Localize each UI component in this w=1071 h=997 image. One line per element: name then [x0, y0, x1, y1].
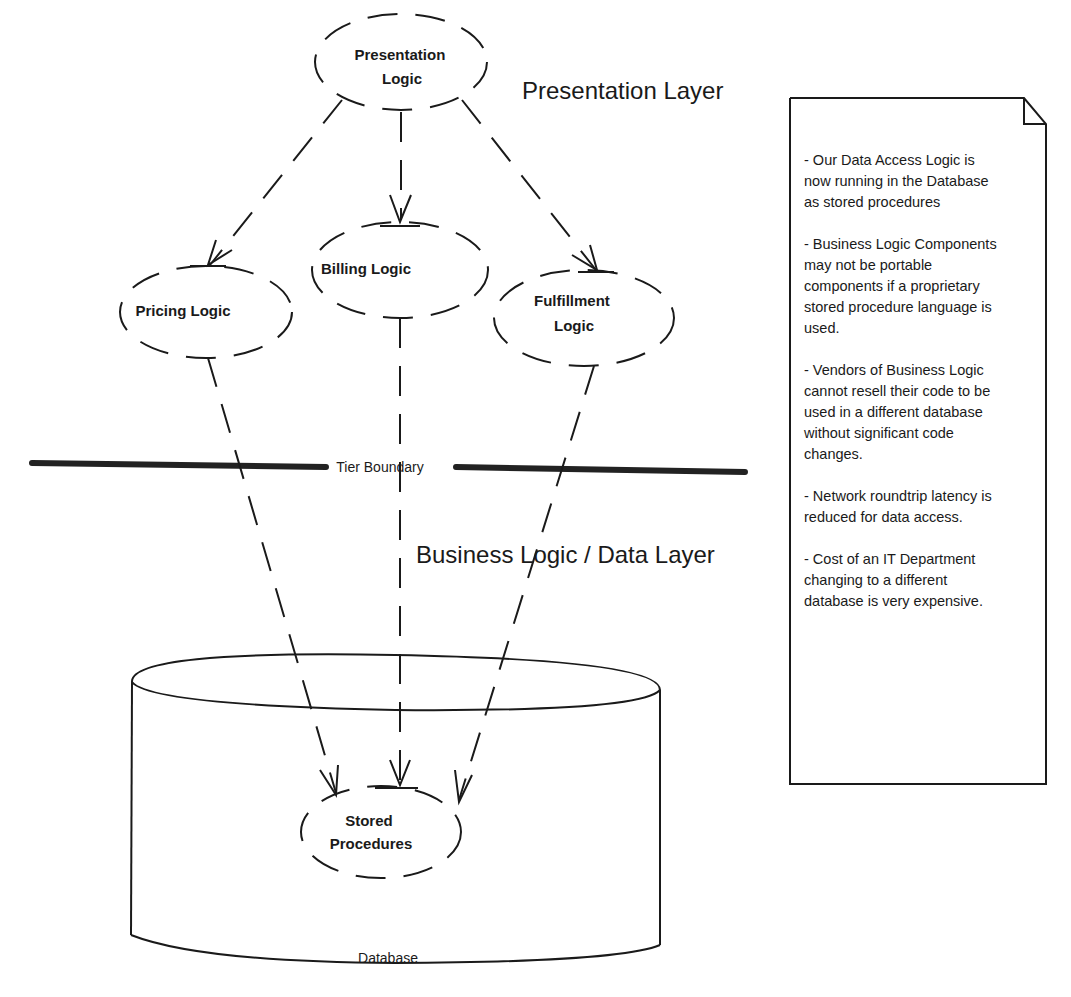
note-item: - Network roundtrip latency is reduced f… — [804, 486, 1002, 528]
fulfillment-logic-label: Fulfillment Logic — [534, 292, 614, 334]
edge-presentation-to-pricing — [190, 100, 342, 266]
database-label: Database — [358, 950, 418, 966]
database-cylinder — [131, 654, 660, 963]
presentation-logic-label: Presentation Logic — [354, 46, 449, 87]
edge-presentation-to-billing — [380, 112, 420, 226]
stored-procedures-label: Stored Procedures — [330, 812, 413, 852]
edge-presentation-to-fulfillment — [462, 100, 614, 272]
note-item: - Vendors of Business Logic cannot resel… — [804, 360, 1002, 465]
billing-logic-label: Billing Logic — [321, 260, 411, 277]
edge-pricing-to-stored-procedures — [208, 358, 338, 795]
edge-billing-to-stored-procedures — [375, 318, 418, 788]
presentation-layer-label: Presentation Layer — [522, 77, 723, 104]
note-item: - Cost of an IT Department changing to a… — [804, 549, 1002, 612]
pricing-logic-label: Pricing Logic — [135, 302, 230, 319]
note-item: - Business Logic Components may not be p… — [804, 234, 1002, 339]
edge-fulfillment-to-stored-procedures — [455, 366, 594, 802]
tier-boundary-label: Tier Boundary — [336, 459, 423, 475]
business-data-layer-label: Business Logic / Data Layer — [416, 541, 715, 568]
stored-procedures-node — [301, 786, 461, 878]
note-item: - Our Data Access Logic is now running i… — [804, 150, 1002, 213]
note-panel: - Our Data Access Logic is now running i… — [790, 98, 1016, 784]
